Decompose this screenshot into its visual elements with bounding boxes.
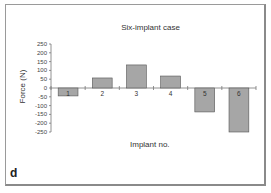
y-tick-label: 150 [37, 59, 48, 65]
y-tick-label: 100 [37, 67, 48, 73]
x-category-label: 1 [66, 90, 70, 97]
x-category-label: 5 [203, 90, 207, 97]
x-category-label: 6 [237, 90, 241, 97]
x-category-label: 2 [100, 90, 104, 97]
y-tick-label: 50 [40, 76, 47, 82]
bar-implant-4 [161, 76, 181, 88]
y-tick-label: -50 [38, 94, 47, 100]
bar-implant-3 [127, 65, 147, 88]
y-tick-label: -200 [35, 120, 48, 126]
y-tick-label: 200 [37, 50, 48, 56]
y-tick-label: 0 [44, 85, 48, 91]
y-tick-label: -100 [35, 103, 48, 109]
bar-implant-2 [92, 78, 112, 88]
y-tick-label: 250 [37, 41, 48, 47]
y-tick-label: -150 [35, 111, 48, 117]
x-category-label: 4 [169, 90, 173, 97]
y-tick-label: -250 [35, 129, 48, 135]
x-category-label: 3 [135, 90, 139, 97]
bar-chart-plot: 250200150100500-50-100-150-200-250123456 [0, 0, 271, 193]
